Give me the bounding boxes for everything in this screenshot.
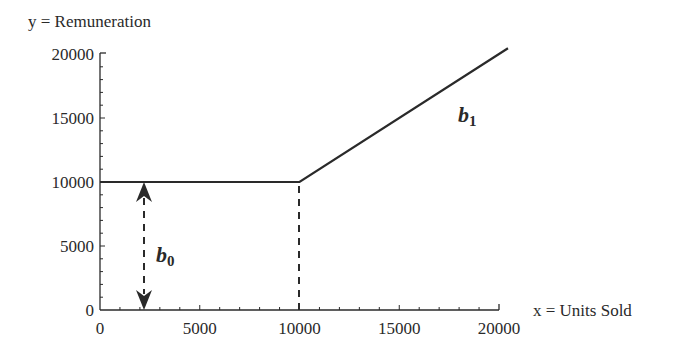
- b0-label: b0: [156, 242, 175, 269]
- x-tick-label: 10000: [278, 319, 321, 338]
- y-tick-label: 5000: [60, 237, 94, 256]
- remuneration-line: [100, 48, 508, 182]
- x-tick-label: 15000: [378, 319, 421, 338]
- x-tick-label: 5000: [183, 319, 217, 338]
- piecewise-remuneration-chart: y = Remuneration 05000100001500020000 05…: [0, 0, 683, 358]
- b0-intercept-arrow: [136, 182, 152, 310]
- b1-label: b1: [458, 102, 477, 129]
- y-axis-title: y = Remuneration: [28, 12, 151, 31]
- y-tick-labels: 05000100001500020000: [52, 45, 95, 320]
- x-tick-label: 20000: [478, 319, 521, 338]
- x-axis-title: x = Units Sold: [533, 301, 632, 320]
- x-tick-labels: 05000100001500020000: [96, 319, 521, 338]
- y-tick-label: 10000: [52, 173, 95, 192]
- y-tick-label: 15000: [52, 109, 95, 128]
- y-tick-label: 0: [86, 301, 95, 320]
- x-tick-label: 0: [96, 319, 105, 338]
- y-tick-label: 20000: [52, 45, 95, 64]
